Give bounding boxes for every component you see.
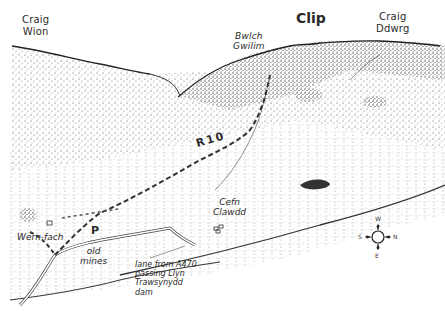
compass-label-right: N <box>393 233 398 240</box>
compass-label-bottom: E <box>375 252 379 259</box>
peak-label-craig-ddwrg: CraigDdwrg <box>376 11 410 34</box>
compass-label-left: S <box>358 233 362 240</box>
lane-note: lane from A470 passing Llyn Trawsynydd d… <box>135 260 197 297</box>
peak-label-clip: Clip <box>296 10 326 26</box>
compass-label-top: W <box>375 215 381 222</box>
sketch-map <box>0 0 445 311</box>
parking-label: P <box>91 225 99 238</box>
place-label-wern-fach: Wern-fach <box>17 232 63 242</box>
place-label-old-mines: oldmines <box>80 246 107 267</box>
peak-label-craig-wion: CraigWion <box>22 14 49 37</box>
peak-label-bwlch-gwilim: BwlchGwilim <box>233 31 265 52</box>
place-label-cefn-clawdd: CefnClawdd <box>213 197 246 218</box>
